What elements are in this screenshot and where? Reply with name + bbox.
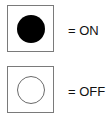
legend-row-on: = ON: [0, 0, 109, 61]
filled-circle-icon: [17, 15, 45, 43]
indicator-box-off: [7, 66, 54, 113]
legend-label-off: = OFF: [68, 85, 105, 99]
empty-circle-icon: [17, 76, 45, 104]
legend-row-off: = OFF: [0, 61, 109, 122]
legend-label-on: = ON: [68, 24, 99, 38]
indicator-box-on: [7, 5, 54, 52]
